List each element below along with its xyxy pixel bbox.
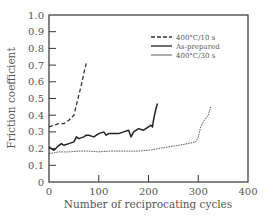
x-tick-label: 300 (189, 186, 208, 197)
x-tick-label: 0 (46, 186, 52, 197)
y-tick-label: 0 (38, 177, 44, 188)
x-tick-labels: 0100200300400 (46, 186, 258, 197)
y-tick-labels: 00.10.20.30.40.50.60.70.80.91.0 (28, 10, 44, 188)
y-tick-label: 0.8 (28, 43, 44, 54)
y-tick-label: 0.5 (28, 93, 44, 104)
x-axis-title: Number of reciprocating cycles (64, 198, 232, 210)
series-line-0 (49, 63, 86, 127)
plot-frame (49, 15, 248, 182)
legend-label-as-prepared: As-prepared (175, 43, 220, 51)
series-line-1 (49, 104, 158, 151)
legend-label-400c-10s: 400°C/10 s (176, 34, 216, 42)
y-tick-label: 0.3 (28, 126, 44, 137)
y-tick-label: 0.6 (28, 76, 44, 87)
legend: 400°C/10 s As-prepared 400°C/30 s (151, 34, 220, 60)
y-axis-title: Friction coefficient (5, 47, 17, 149)
y-tick-label: 0.7 (28, 60, 44, 71)
legend-label-400c-30s: 400°C/30 s (176, 52, 216, 60)
series-line-2 (49, 107, 211, 154)
y-tick-label: 0.4 (28, 110, 44, 121)
friction-chart: 00.10.20.30.40.50.60.70.80.91.0 01002003… (0, 0, 273, 224)
x-tick-label: 400 (238, 186, 257, 197)
x-tick-label: 200 (139, 186, 158, 197)
y-tick-label: 1.0 (28, 10, 44, 21)
x-tick-label: 100 (89, 186, 108, 197)
y-tick-label: 0.9 (28, 26, 44, 37)
y-tick-label: 0.2 (28, 143, 44, 154)
series-layer (49, 63, 211, 153)
y-tick-label: 0.1 (28, 160, 44, 171)
